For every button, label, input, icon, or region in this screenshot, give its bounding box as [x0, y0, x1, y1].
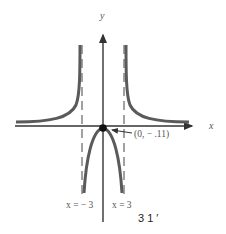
curve-right-branch — [126, 45, 189, 122]
curve-left-branch — [16, 45, 80, 122]
page-number: 3 1 ′ — [138, 212, 158, 224]
max-point — [99, 124, 107, 132]
left-asymptote-label: x = − 3 — [66, 200, 94, 210]
y-axis-label: y — [99, 10, 105, 21]
annotation-arrow — [112, 130, 132, 133]
rational-function-graph: (0, − .11) y x x = − 3 x = 3 3 1 ′ — [0, 0, 226, 234]
x-axis-label: x — [208, 120, 214, 131]
point-label: (0, − .11) — [134, 129, 169, 140]
right-asymptote-label: x = 3 — [112, 200, 132, 210]
